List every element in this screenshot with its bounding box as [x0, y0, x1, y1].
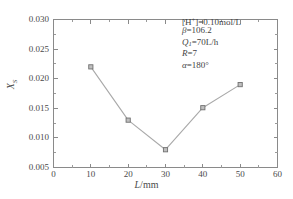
chart-figure: 0.0050.0100.0150.0200.0250.030 010203040… — [0, 0, 293, 199]
data-point — [201, 106, 205, 110]
annotation-line-q1: Q1=70L/h — [182, 37, 241, 48]
series-line-xs — [91, 67, 240, 150]
x-tick-label: 20 — [113, 170, 143, 179]
y-axis-title: XS — [6, 80, 19, 90]
y-tick-label: 0.025 — [14, 45, 49, 54]
annotation-block: [H+]=0.10mol/L β=106.2 Q1=70L/h R=7 α=18… — [182, 14, 241, 71]
y-axis-title-symbol: X — [5, 83, 16, 89]
annotation-line-alpha: α=180° — [182, 60, 241, 71]
x-tick-label: 30 — [151, 170, 181, 179]
annotation-line-beta: β=106.2 — [182, 25, 241, 36]
x-axis-title: L/mm — [0, 180, 293, 190]
y-tick-label: 0.010 — [14, 133, 49, 142]
x-tick-label: 0 — [39, 170, 69, 179]
y-axis-title-subscript: S — [11, 80, 19, 84]
x-tick-label: 10 — [76, 170, 106, 179]
y-tick-label: 0.015 — [14, 104, 49, 113]
data-point — [163, 148, 167, 152]
axes-frame — [54, 20, 278, 168]
x-tick-label: 40 — [188, 170, 218, 179]
data-point — [89, 65, 93, 69]
x-tick-label: 50 — [225, 170, 255, 179]
data-point — [238, 83, 242, 87]
annotation-line-r: R=7 — [182, 48, 241, 59]
data-point — [126, 118, 130, 122]
data-series — [89, 65, 243, 152]
x-tick-label: 60 — [263, 170, 293, 179]
series-markers — [89, 65, 243, 152]
y-tick-label: 0.030 — [14, 15, 49, 24]
x-axis-title-unit: /mm — [140, 179, 158, 190]
annotation-line-acid: [H+]=0.10mol/L — [182, 14, 241, 25]
axis-ticks — [54, 20, 278, 168]
